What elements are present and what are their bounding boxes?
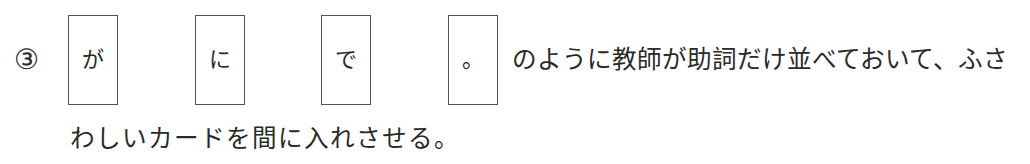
body-text-line-1: のように教師が助詞だけ並べておいて、ふさ — [512, 44, 1008, 76]
body-text-line-2: わしいカードを間に入れさせる。 — [70, 123, 460, 155]
card-label: に — [209, 49, 231, 71]
particle-card-period: 。 — [448, 15, 498, 105]
particle-card-de: で — [321, 15, 371, 105]
card-label: で — [335, 49, 357, 71]
item-number: ③ — [14, 44, 39, 76]
particle-card-ga: が — [68, 15, 118, 105]
particle-card-ni: に — [195, 15, 245, 105]
card-label: 。 — [462, 49, 484, 71]
card-label: が — [82, 49, 104, 71]
